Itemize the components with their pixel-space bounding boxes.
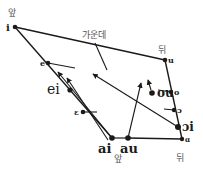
au-dot	[125, 135, 131, 141]
au-label: au	[120, 141, 138, 156]
vowel-quadrilateral-diagram: 앞 가운데 뒤 앞 뒤 i e ei ɛ ai au u o ou ɔ ɔi ɑ	[0, 0, 203, 169]
front-edge-line	[15, 27, 112, 138]
o-label: o	[174, 87, 180, 97]
u-dot	[163, 58, 168, 63]
oi-label: ɔi	[182, 120, 194, 134]
e-label: e	[40, 58, 45, 68]
bottom-edge-line	[128, 138, 182, 139]
back-bottom-label: 뒤	[176, 152, 184, 163]
open-o-dot	[172, 108, 176, 112]
ou-label: ou	[157, 86, 174, 100]
a-back-label: ɑ	[185, 135, 190, 144]
u-label: u	[168, 55, 174, 65]
ou-trajectory-arrow	[148, 80, 151, 90]
epsilon-label: ɛ	[74, 107, 79, 117]
ai-dot	[109, 135, 115, 141]
i-dot	[13, 25, 18, 30]
epsilon-dot	[81, 110, 86, 115]
a-back-dot	[180, 137, 184, 141]
oi-trajectory-arrow	[93, 74, 178, 127]
e-dot	[46, 61, 51, 66]
back-top-label: 뒤	[158, 44, 166, 55]
ei-dot	[67, 87, 72, 92]
au-trajectory-arrow	[128, 83, 141, 138]
ei-label: ei	[47, 81, 60, 97]
oi-dot	[175, 124, 181, 130]
open-o-label: ɔ	[177, 105, 182, 115]
i-label: i	[6, 22, 10, 33]
front-top-label: 앞	[8, 7, 16, 18]
center-label: 가운데	[82, 30, 106, 40]
ai-label: ai	[98, 141, 111, 156]
e-tick-line	[48, 63, 75, 68]
ou-dot	[149, 90, 155, 96]
